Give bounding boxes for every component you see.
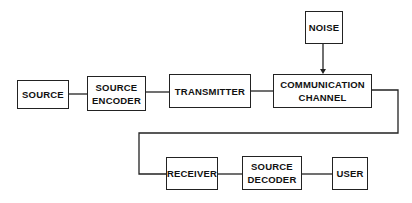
block-transmitter: TRANSMITTER [169, 74, 251, 108]
block-label: SOURCE [248, 160, 297, 173]
block-label: SOURCE [22, 88, 64, 101]
block-source-decoder: SOURCE DECODER [242, 156, 302, 190]
block-label: USER [336, 167, 363, 180]
block-source-encoder: SOURCE ENCODER [87, 76, 146, 111]
block-label: SOURCE [92, 81, 141, 94]
block-label: TRANSMITTER [175, 85, 245, 98]
block-communication-channel: COMMUNICATION CHANNEL [273, 74, 372, 108]
block-source: SOURCE [17, 80, 69, 109]
block-receiver: RECEIVER [166, 157, 218, 190]
block-label: COMMUNICATION [280, 78, 365, 91]
block-label: RECEIVER [167, 167, 217, 180]
block-label: ENCODER [92, 94, 141, 107]
block-user: USER [332, 157, 368, 190]
block-noise: NOISE [305, 11, 343, 44]
block-label: CHANNEL [280, 91, 365, 104]
block-label: NOISE [309, 21, 340, 34]
block-label: DECODER [248, 173, 297, 186]
